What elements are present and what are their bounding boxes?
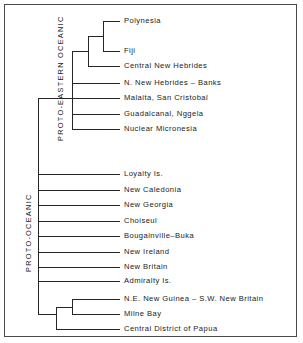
- leaf-label-fiji: Fiji: [124, 47, 136, 55]
- leaf-label-guadalcanal-nggela: Guadalcanal, Nggela: [124, 110, 203, 118]
- leaf-label-ne-new-guinea-sw-new-britain: N.E. New Guinea – S.W. New Britain: [124, 295, 263, 303]
- branch-h-milne-bay: [72, 314, 120, 315]
- branch-h-central-new-hebrides: [88, 66, 120, 67]
- branch-h-admiralty-is: [38, 281, 120, 282]
- branch-h-new-georgia: [38, 205, 120, 206]
- branch-h-polynesia: [103, 21, 120, 22]
- branch-h-nuclear-micronesia: [72, 129, 120, 130]
- leaf-label-malaita-san-cristobal: Malaita, San Cristobal: [124, 94, 208, 102]
- branch-h-to-papuan-tip-node: [38, 314, 56, 315]
- branch-h-guadalcanal-nggela: [72, 114, 120, 115]
- branch-h-fiji: [103, 51, 120, 52]
- leaf-label-loyalty-is: Loyalty Is.: [124, 170, 163, 178]
- branch-h-loyalty-is: [38, 174, 120, 175]
- leaf-label-milne-bay: Milne Bay: [124, 310, 161, 318]
- branch-h-new-caledonia: [38, 190, 120, 191]
- branch-h-new-britain: [38, 267, 120, 268]
- leaf-label-admiralty-is: Admiralty Is.: [124, 277, 172, 285]
- branch-h-n-new-hebrides-banks: [72, 83, 120, 84]
- leaf-label-bougainville-buka: Bougainville–Buka: [124, 232, 194, 240]
- leaf-label-choiseul: Choiseul: [124, 217, 157, 225]
- branch-v-papuan-tip: [56, 307, 57, 329]
- branch-h-to-proto-eastern-oceanic: [38, 98, 72, 99]
- leaf-label-nuclear-micronesia: Nuclear Micronesia: [124, 125, 197, 133]
- clade-label-proto-eastern-oceanic: PROTO-EASTERN OCEANIC: [56, 16, 65, 142]
- clade-label-proto-oceanic: PROTO-OCEANIC: [24, 193, 33, 272]
- leaf-label-n-new-hebrides-banks: N. New Hebrides – Banks: [124, 79, 221, 87]
- branch-h-bougainville-buka: [38, 236, 120, 237]
- branch-v-ne-new-guinea-milne-bay: [72, 299, 73, 314]
- leaf-label-new-caledonia: New Caledonia: [124, 186, 181, 194]
- branch-v-polynesia-fiji: [103, 21, 104, 51]
- leaf-label-polynesia: Polynesia: [124, 17, 161, 25]
- leaf-label-central-new-hebrides: Central New Hebrides: [124, 62, 207, 70]
- branch-h-choiseul: [38, 221, 120, 222]
- leaf-label-new-britain: New Britain: [124, 263, 168, 271]
- phylogenetic-tree-figure: PROTO-EASTERN OCEANIC PROTO-OCEANIC Poly…: [0, 0, 303, 343]
- branch-h-central-district-of-papua: [56, 329, 120, 330]
- leaf-label-new-georgia: New Georgia: [124, 201, 173, 209]
- branch-h-malaita-san-cristobal: [72, 98, 120, 99]
- leaf-label-central-district-of-papua: Central District of Papua: [124, 325, 218, 333]
- branch-h-to-central-hebrides-node: [72, 51, 88, 52]
- branch-h-to-polynesia-fiji-node: [88, 36, 103, 37]
- branch-v-proto-eastern-oceanic: [72, 51, 73, 129]
- branch-h-ne-new-guinea-sw-new-britain: [72, 299, 120, 300]
- leaf-label-new-ireland: New Ireland: [124, 248, 169, 256]
- branch-h-to-ne-new-guinea-node: [56, 307, 72, 308]
- branch-h-new-ireland: [38, 252, 120, 253]
- branch-v-central-hebrides: [88, 36, 89, 66]
